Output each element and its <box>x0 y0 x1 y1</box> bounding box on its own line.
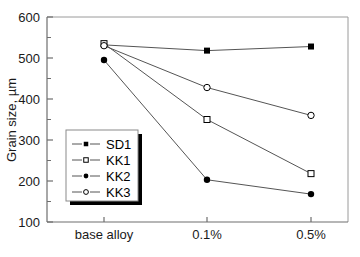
x-tick-label: 0.1% <box>192 227 222 242</box>
marker-filled-square <box>84 142 89 147</box>
marker-filled-square <box>204 48 210 54</box>
x-tick-label: 0.5% <box>296 227 326 242</box>
chart-legend: SD1KK1KK2KK3 <box>66 130 142 205</box>
y-tick-label: 500 <box>18 51 40 66</box>
chart-background <box>0 0 360 257</box>
marker-filled-circle <box>308 191 314 197</box>
marker-filled-circle <box>84 174 89 179</box>
y-tick-label: 100 <box>18 215 40 230</box>
marker-filled-square <box>308 44 314 50</box>
y-tick-label: 400 <box>18 92 40 107</box>
y-tick-label: 600 <box>18 10 40 25</box>
legend-label: KK2 <box>106 169 131 184</box>
x-tick-label: base alloy <box>75 227 134 242</box>
chart-svg: 100200300400500600 base alloy0.1%0.5% Gr… <box>0 0 360 257</box>
y-axis-title: Grain size, µm <box>4 78 19 162</box>
marker-filled-circle <box>204 177 210 183</box>
y-tick-label: 300 <box>18 133 40 148</box>
marker-open-circle <box>204 84 210 90</box>
marker-filled-circle <box>101 57 107 63</box>
marker-open-circle <box>101 43 107 49</box>
legend-label: SD1 <box>106 137 131 152</box>
marker-open-square <box>204 117 210 123</box>
marker-open-circle <box>308 112 314 118</box>
marker-open-square <box>84 158 89 163</box>
grain-size-chart: 100200300400500600 base alloy0.1%0.5% Gr… <box>0 0 360 257</box>
marker-open-circle <box>84 190 89 195</box>
y-tick-label: 200 <box>18 174 40 189</box>
legend-label: KK1 <box>106 153 131 168</box>
legend-label: KK3 <box>106 185 131 200</box>
marker-open-square <box>308 171 314 177</box>
